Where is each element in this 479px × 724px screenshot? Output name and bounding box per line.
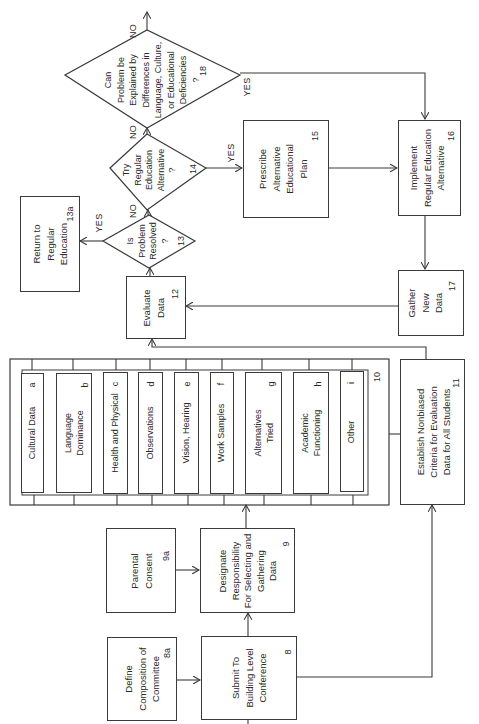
edge-label-14-no: NO xyxy=(128,125,138,139)
decision-14-text: Try Regular Education Alternative ? xyxy=(121,149,179,192)
edge-label-18-yes: YES xyxy=(242,78,252,97)
node-13a-return-regular-education: Return to Regular Education 13a xyxy=(20,196,80,292)
node-9a-text: Parental Consent xyxy=(128,553,155,588)
data-item-a-text: Cultural Data xyxy=(26,407,40,460)
node-9a-number: 9a xyxy=(161,551,171,561)
data-item-e-vision-hearing: Vision, Hearing e xyxy=(174,372,199,494)
node-13a-text: Return to Regular Education xyxy=(30,223,71,265)
node-15-text: Prescribe Alternative Educational Plan xyxy=(256,144,310,194)
node-9-number: 9 xyxy=(280,541,290,546)
node-9-designate-responsibility: Designate Responsibility For Selecting a… xyxy=(200,528,295,613)
edge-label-13-yes: YES xyxy=(94,214,104,233)
node-10-number: 10 xyxy=(372,372,382,382)
node-8a-text: Define Composition of Committee xyxy=(122,647,163,710)
node-9a-parental-consent: Parental Consent 9a xyxy=(106,528,176,613)
data-item-h-text: Academic Functioning xyxy=(299,410,323,457)
data-item-d-text: Observations xyxy=(144,406,158,459)
node-12-number: 12 xyxy=(170,289,180,299)
data-item-h-letter: h xyxy=(312,381,322,386)
data-item-d-observations: Observations d xyxy=(138,372,163,494)
decision-18-number: 18 xyxy=(198,66,208,76)
node-11-establish-nonbiased-criteria: Establish Nonbiased Criteria for Evaluat… xyxy=(400,359,465,505)
node-16-implement-regular-education: Implement Regular Education Alternative … xyxy=(398,120,461,216)
data-item-f-letter: f xyxy=(216,383,226,386)
edge-label-14-yes: YES xyxy=(226,144,236,163)
data-item-c-letter: c xyxy=(110,382,120,387)
decision-13-text: Is Problem Resolved ? xyxy=(125,222,171,260)
node-16-number: 16 xyxy=(446,131,456,141)
decision-14-number: 14 xyxy=(188,164,198,174)
data-item-c-health-physical: Health and Physical c xyxy=(103,372,128,494)
node-8-submit-building-level: Submit To Building Level Conference 8 xyxy=(201,636,297,720)
node-12-text: Evaluate Data xyxy=(139,289,166,326)
data-item-b-language-dominance: Language Dominance b xyxy=(56,373,92,493)
node-12-evaluate-data: Evaluate Data 12 xyxy=(126,276,186,339)
node-8a-define-committee: Define Composition of Committee 8a xyxy=(107,637,177,721)
node-11-text: Establish Nonbiased Criteria for Evaluat… xyxy=(413,386,452,477)
data-item-g-letter: g xyxy=(265,381,275,386)
data-item-g-alternatives-tried: Alternatives Tried g xyxy=(245,372,282,494)
data-item-i-other: Other i xyxy=(340,371,364,492)
data-item-h-academic-functioning: Academic Functioning h xyxy=(293,372,329,494)
node-9-text: Designate Responsibility For Selecting a… xyxy=(216,533,279,607)
data-item-e-letter: e xyxy=(182,381,192,386)
node-17-gather-new-data: Gather New Data 17 xyxy=(398,270,464,336)
node-8a-number: 8a xyxy=(162,648,172,658)
data-item-a-cultural-data: Cultural Data a xyxy=(21,373,44,493)
decision-13-number: 13 xyxy=(176,236,186,246)
data-item-e-text: Vision, Hearing xyxy=(180,403,194,464)
node-15-number: 15 xyxy=(310,131,320,141)
data-item-d-letter: d xyxy=(146,381,156,386)
data-item-f-work-samples: Work Samples f xyxy=(210,372,234,494)
node-13a-number: 13a xyxy=(64,206,74,221)
node-11-number: 11 xyxy=(450,378,460,387)
data-item-a-letter: a xyxy=(27,382,37,387)
node-16-text: Implement Regular Education Alternative xyxy=(407,129,448,207)
data-item-f-text: Work Samples xyxy=(215,404,229,462)
edge-label-13-no: NO xyxy=(128,204,138,218)
node-15-prescribe-alternative-plan: Prescribe Alternative Educational Plan 1… xyxy=(243,120,329,218)
node-17-number: 17 xyxy=(447,281,457,291)
node-17-text: Gather New Data xyxy=(404,288,445,317)
data-item-g-text: Alternatives Tried xyxy=(252,409,276,456)
data-item-i-letter: i xyxy=(346,382,356,384)
node-8-text: Submit To Building Level Conference xyxy=(229,648,270,707)
data-item-i-text: Other xyxy=(345,420,359,443)
decision-18-text: Can Problem be Explained by Differences … xyxy=(102,42,202,119)
edge-label-18-no: NO xyxy=(128,24,138,38)
data-item-b-letter: b xyxy=(79,382,89,387)
node-8-number: 8 xyxy=(282,649,292,654)
data-item-b-text: Language Dominance xyxy=(62,410,86,456)
data-item-c-text: Health and Physical xyxy=(109,393,123,473)
